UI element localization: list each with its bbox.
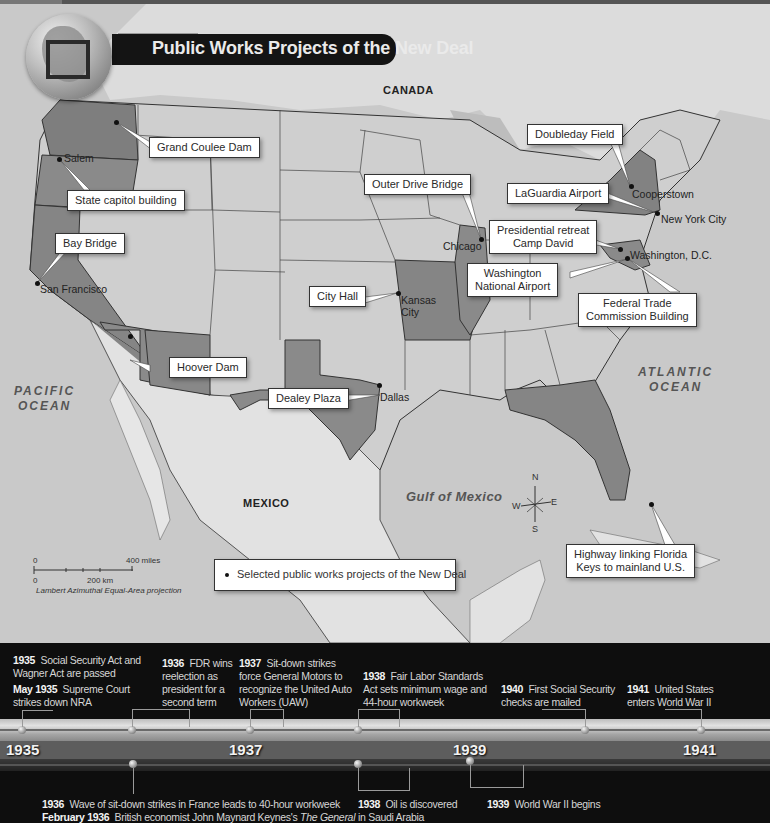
map-page: Public Works Projects of the New Deal CA… <box>0 0 770 823</box>
marker-new-york-city <box>655 211 660 216</box>
legend-dot-icon <box>225 573 229 577</box>
city-salem: Salem <box>64 152 94 164</box>
marker-camp-david <box>618 247 623 252</box>
event-1936-france-strikes: 1936 Wave of sit-down strikes in France … <box>42 798 340 811</box>
callout-camp-david: Presidential retreat Camp David <box>489 220 597 254</box>
event-1939-wwii-begins: 1939 World War II begins <box>487 798 600 811</box>
callout-highway-florida-keys: Highway linking Florida Keys to mainland… <box>566 544 695 578</box>
callout-federal-trade-commission: Federal Trade Commission Building <box>578 293 697 327</box>
callout-washington-national-airport: Washington National Airport <box>467 263 558 297</box>
callout-grand-coulee-dam: Grand Coulee Dam <box>149 137 260 158</box>
scale-ruler <box>33 566 133 576</box>
marker-dallas <box>377 383 382 388</box>
marker-hoover-dam <box>128 334 133 339</box>
knob-1941 <box>697 726 705 734</box>
knob-1940 <box>581 726 589 734</box>
event-1935-social-security: 1935 Social Security Act and Wagner Act … <box>13 654 141 680</box>
marker-florida-keys <box>649 502 654 507</box>
city-chicago: Chicago <box>443 240 482 252</box>
map-legend: Selected public works projects of the Ne… <box>214 559 456 591</box>
year-1935: 1935 <box>6 741 39 758</box>
event-feb-1936-keynes: February 1936 British economist John May… <box>42 811 355 823</box>
marker-salem <box>57 157 62 162</box>
year-1941: 1941 <box>683 741 716 758</box>
city-san-francisco: San Francisco <box>40 283 107 295</box>
knob-1936-france <box>129 760 137 768</box>
knob-1938-flsa <box>354 726 362 734</box>
callout-outer-drive-bridge: Outer Drive Bridge <box>364 174 471 195</box>
callout-laguardia-airport: LaGuardia Airport <box>507 183 609 204</box>
compass-rose: N S E W <box>515 478 555 530</box>
city-washington-dc: Washington, D.C. <box>630 249 712 261</box>
compass-icon <box>515 478 555 528</box>
callout-city-hall: City Hall <box>309 286 366 307</box>
knob-may-1935 <box>18 726 26 734</box>
callout-state-capitol: State capitol building <box>67 190 185 211</box>
city-dallas: Dallas <box>380 391 409 403</box>
event-1936-fdr-reelection: 1936 FDR wins reelection as president fo… <box>162 657 233 709</box>
city-kansas-city: Kansas City <box>401 294 436 318</box>
city-new-york-city: New York City <box>661 213 726 225</box>
event-1937-sit-down-strikes: 1937 Sit-down strikes force General Moto… <box>239 657 352 709</box>
map-area: Public Works Projects of the New Deal CA… <box>0 0 770 643</box>
callout-hoover-dam: Hoover Dam <box>169 357 247 378</box>
timeline-rail-middle <box>0 741 770 759</box>
event-1940-social-security-checks: 1940 First Social Security checks are ma… <box>501 683 615 709</box>
year-1937: 1937 <box>229 741 262 758</box>
callout-doubleday-field: Doubleday Field <box>527 124 623 145</box>
knob-1939 <box>466 757 474 765</box>
knob-1936-fdr <box>128 726 136 734</box>
timeline: 1935 1937 1939 1941 1935 Social Security… <box>0 643 770 823</box>
year-1939: 1939 <box>453 741 486 758</box>
event-1938-saudi-oil: 1938 Oil is discovered in Saudi Arabia <box>358 798 457 823</box>
callout-bay-bridge: Bay Bridge <box>55 233 125 254</box>
knob-1937 <box>246 726 254 734</box>
event-1941-world-war-ii: 1941 United States enters World War II <box>627 683 714 709</box>
knob-1938-oil <box>354 760 362 768</box>
event-1938-fair-labor: 1938 Fair Labor Standards Act sets minim… <box>363 670 487 709</box>
event-may-1935-nra: May 1935 Supreme Court strikes down NRA <box>13 683 130 709</box>
city-cooperstown: Cooperstown <box>632 188 694 200</box>
callout-dealey-plaza: Dealey Plaza <box>268 388 349 409</box>
marker-grand-coulee <box>114 120 119 125</box>
